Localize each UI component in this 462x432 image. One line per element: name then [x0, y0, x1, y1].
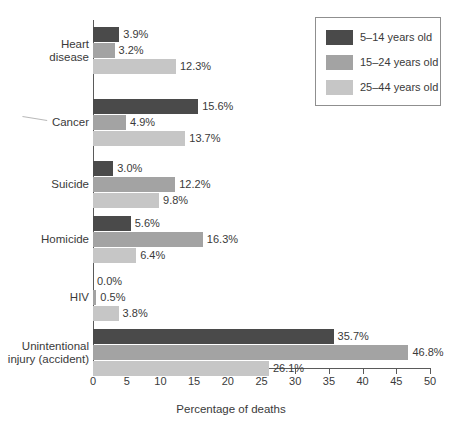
- bar: [93, 290, 96, 305]
- bar: [93, 193, 159, 208]
- category-label-line: Suicide: [5, 178, 89, 191]
- bar-value-label: 0.0%: [97, 276, 122, 287]
- bar: [93, 43, 115, 58]
- category-label-line: injury (accident): [5, 353, 89, 366]
- bottom-caption: [0, 425, 462, 432]
- category-label-line: Homicide: [5, 233, 89, 246]
- bar: [93, 115, 126, 130]
- bar-value-label: 9.8%: [163, 195, 188, 206]
- category-label: Cancer: [5, 116, 93, 129]
- category-label-line: Unintentional: [5, 340, 89, 353]
- legend-swatch-icon: [326, 80, 353, 95]
- bar-value-label: 6.4%: [140, 250, 165, 261]
- bar-value-label: 12.2%: [179, 179, 210, 190]
- x-tick-label: 10: [145, 375, 175, 388]
- x-tick: [329, 369, 330, 374]
- bar: [93, 329, 334, 344]
- bar: [93, 248, 136, 263]
- x-tick-label: 35: [314, 375, 344, 388]
- x-tick-label: 25: [247, 375, 277, 388]
- category-label: Unintentionalinjury (accident): [5, 340, 93, 366]
- bar: [93, 161, 113, 176]
- bar-value-label: 3.2%: [119, 45, 144, 56]
- x-tick-label: 15: [179, 375, 209, 388]
- bar-chart: HeartdiseaseCancerSuicideHomicideHIVUnin…: [0, 0, 462, 432]
- bar: [93, 216, 131, 231]
- bar: [93, 345, 408, 360]
- bar: [93, 306, 119, 321]
- x-tick-label: 20: [213, 375, 243, 388]
- x-tick-label: 5: [112, 375, 142, 388]
- bar-value-label: 5.6%: [135, 218, 160, 229]
- bar: [93, 131, 185, 146]
- bar: [93, 59, 176, 74]
- legend-label: 5–14 years old: [360, 31, 432, 44]
- category-label-line: HIV: [5, 291, 89, 304]
- bar: [93, 27, 119, 42]
- x-tick: [430, 369, 431, 374]
- legend-label: 15–24 years old: [360, 56, 438, 69]
- category-label: Suicide: [5, 178, 93, 191]
- x-tick: [363, 369, 364, 374]
- category-label: HIV: [5, 291, 93, 304]
- bar: [93, 177, 175, 192]
- x-tick: [396, 369, 397, 374]
- bar-value-label: 13.7%: [189, 133, 220, 144]
- x-tick-label: 30: [280, 375, 310, 388]
- legend-label: 25–44 years old: [360, 81, 438, 94]
- category-label-line: disease: [5, 51, 89, 64]
- category-label: Heartdisease: [5, 38, 93, 64]
- category-label: Homicide: [5, 233, 93, 246]
- bar-value-label: 15.6%: [202, 101, 233, 112]
- legend-swatch-icon: [326, 55, 353, 70]
- x-tick-label: 40: [348, 375, 378, 388]
- x-tick-label: 45: [381, 375, 411, 388]
- bar-value-label: 3.8%: [123, 308, 148, 319]
- x-tick-label: 0: [78, 375, 108, 388]
- category-axis: HeartdiseaseCancerSuicideHomicideHIVUnin…: [0, 0, 93, 432]
- bar-value-label: 12.3%: [180, 61, 211, 72]
- bar: [93, 232, 203, 247]
- category-label-line: Cancer: [5, 116, 89, 129]
- bar-value-label: 0.5%: [100, 292, 125, 303]
- bar-value-label: 3.0%: [117, 163, 142, 174]
- category-label-line: Heart: [5, 38, 89, 51]
- bar-value-label: 46.8%: [412, 347, 443, 358]
- bar-value-label: 16.3%: [207, 234, 238, 245]
- legend: 5–14 years old 15–24 years old 25–44 yea…: [315, 17, 441, 106]
- bar: [93, 99, 198, 114]
- x-tick-label: 50: [415, 375, 445, 388]
- bar-value-label: 4.9%: [130, 117, 155, 128]
- bar-value-label: 3.9%: [123, 29, 148, 40]
- x-axis-title: Percentage of deaths: [0, 403, 462, 415]
- bar: [93, 361, 269, 376]
- bar-value-label: 26.1%: [273, 363, 304, 374]
- legend-swatch-icon: [326, 30, 353, 45]
- bar-value-label: 35.7%: [338, 331, 369, 342]
